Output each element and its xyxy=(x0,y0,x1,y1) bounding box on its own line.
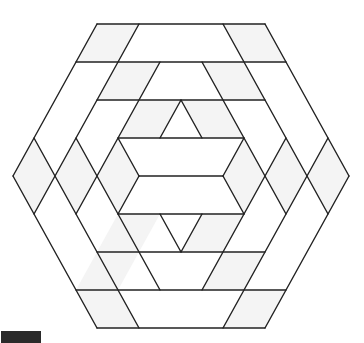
shaded-cell xyxy=(76,290,139,328)
shaded-cell xyxy=(181,100,244,138)
shaded-cell xyxy=(118,100,181,138)
shaded-cell xyxy=(223,138,265,214)
shaded-cell xyxy=(181,214,244,252)
shaded-cell xyxy=(202,62,265,100)
shaded-cell xyxy=(265,138,307,214)
shaded-cell xyxy=(13,138,55,214)
figure-line xyxy=(160,214,181,252)
hexagon-tiling-figure xyxy=(0,0,364,343)
shaded-cell xyxy=(202,252,265,290)
shaded-cell xyxy=(223,24,286,62)
shaded-cell xyxy=(76,24,139,62)
shaded-cell xyxy=(55,138,97,214)
shaded-cell xyxy=(97,62,160,100)
shaded-cell xyxy=(307,138,349,214)
shaded-cell xyxy=(97,138,139,214)
corner-box xyxy=(1,331,41,343)
shaded-cell xyxy=(223,290,286,328)
